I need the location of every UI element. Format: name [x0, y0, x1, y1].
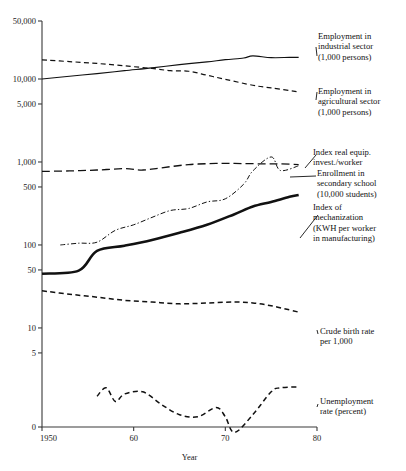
series-line-birth-rate — [42, 291, 299, 312]
y-tick-label: 10 — [28, 323, 37, 333]
series-line-mechanization — [42, 195, 299, 274]
leader-line-6 — [317, 404, 318, 407]
leader-line-1 — [316, 92, 317, 100]
annotation-mechanization: Index of mechanization (KWH per worker i… — [313, 202, 376, 244]
annotation-enrollment: Enrollment in secondary school (10,000 s… — [317, 168, 377, 199]
annotation-agricultural: Employment in agricultural sector (1,000… — [318, 86, 380, 117]
annotation-industrial: Employment in industrial sector (1,000 p… — [318, 31, 373, 62]
x-axis-title: Year — [182, 452, 198, 462]
x-tick-label: 70 — [221, 433, 230, 443]
leader-line-3 — [290, 176, 316, 177]
log-scale-time-series-chart: 50,00010,0005,0001,000500100501050195060… — [0, 0, 406, 471]
y-tick-label: 100 — [23, 240, 36, 250]
y-tick-label: 5,000 — [17, 99, 36, 109]
x-tick-label: 1950 — [40, 433, 57, 443]
leader-line-5 — [317, 330, 318, 334]
y-tick-label: 50 — [28, 265, 37, 275]
y-tick-label: 10,000 — [13, 74, 36, 84]
y-tick-label: 500 — [23, 182, 36, 192]
annotation-crude-birth-rate: Crude birth rate per 1,000 — [320, 326, 374, 347]
series-line-industrial — [42, 56, 299, 79]
y-tick-label: 1,000 — [17, 157, 36, 167]
x-tick-label: 80 — [313, 433, 322, 443]
chart-axes — [42, 21, 317, 427]
x-tick-label: 60 — [129, 433, 138, 443]
annotation-equip-investment: Index real equip. invest./worker — [313, 147, 371, 168]
series-line-unemployment — [97, 387, 299, 433]
annotation-unemployment: Unemployment rate (percent) — [320, 396, 373, 417]
series-line-agricultural — [42, 60, 299, 92]
y-tick-label: 5 — [32, 348, 36, 358]
series-line-enrollment — [42, 163, 299, 171]
leader-line-0 — [316, 47, 317, 56]
y-tick-label: 50,000 — [13, 16, 36, 26]
y-tick-label: 0 — [32, 422, 36, 432]
